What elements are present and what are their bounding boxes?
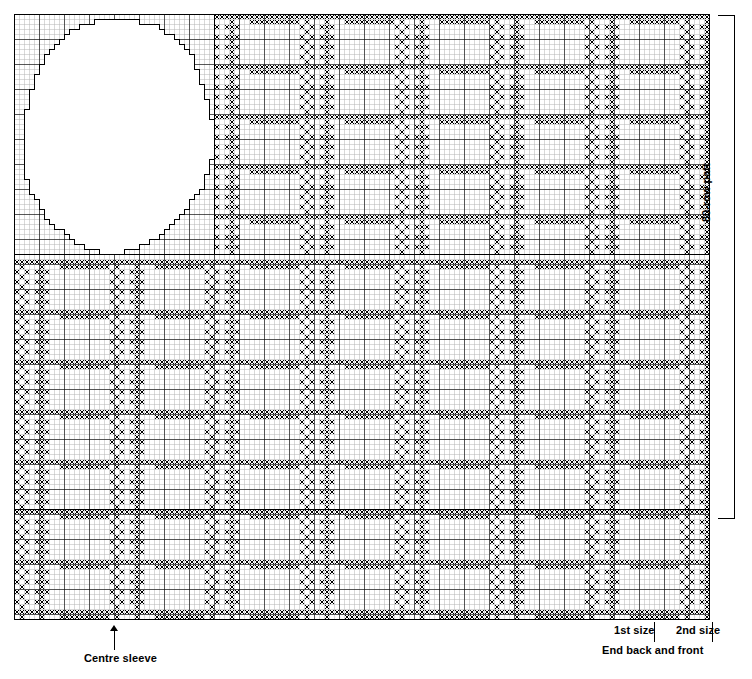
centre-sleeve-leader-line xyxy=(114,628,115,650)
second-size-label: 2nd size xyxy=(676,624,720,636)
row-repeat-bracket xyxy=(718,15,735,519)
chart-svg xyxy=(14,14,712,622)
first-size-label: 1st size xyxy=(614,624,655,636)
centre-sleeve-label: Centre sleeve xyxy=(84,652,157,664)
row-repeat-label: 80-row patt xyxy=(700,163,712,222)
knitting-chart-grid xyxy=(14,14,712,622)
end-back-and-front-label: End back and front xyxy=(602,644,703,656)
chart-page: 80-row patt Centre sleeve 1st size 2nd s… xyxy=(0,0,752,679)
